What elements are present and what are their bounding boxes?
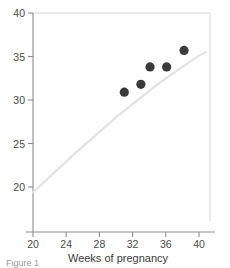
- data-point: [145, 62, 154, 71]
- y-axis: 40 35 30 25 20: [13, 7, 33, 232]
- y-tick-label-25: 25: [13, 138, 25, 150]
- data-point: [120, 88, 129, 97]
- y-tick-label-35: 35: [13, 51, 25, 63]
- x-tick-label-24: 24: [60, 238, 72, 250]
- x-tick-label-40: 40: [193, 238, 205, 250]
- figure-caption: Figure 1: [6, 260, 126, 268]
- data-point: [179, 46, 188, 55]
- x-tick-label-20: 20: [27, 238, 39, 250]
- reference-curve-path: [33, 52, 206, 192]
- reference-curve: [33, 52, 206, 192]
- figure-root: 40 35 30 25 20 20 24 28 32 36 40: [0, 0, 230, 268]
- data-point-group: [120, 46, 189, 97]
- scatter-chart: 40 35 30 25 20 20 24 28 32 36 40: [0, 0, 230, 268]
- y-tick-label-20: 20: [13, 181, 25, 193]
- x-tick-label-28: 28: [94, 238, 106, 250]
- data-point: [162, 62, 171, 71]
- data-point: [136, 80, 145, 89]
- y-tick-label-40: 40: [13, 7, 25, 19]
- x-axis: 20 24 28 32 36 40: [26, 232, 215, 250]
- y-tick-label-30: 30: [13, 94, 25, 106]
- plot-frame: [33, 13, 210, 221]
- x-tick-label-32: 32: [127, 238, 139, 250]
- figure-caption-clip: Figure 1: [6, 260, 126, 268]
- x-tick-label-36: 36: [160, 238, 172, 250]
